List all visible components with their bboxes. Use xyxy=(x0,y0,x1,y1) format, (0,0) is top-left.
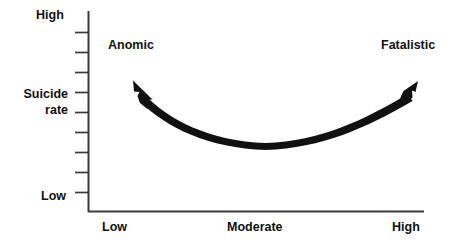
x-axis-label-moderate: Moderate xyxy=(227,220,283,235)
annotation-fatalistic: Fatalistic xyxy=(381,38,435,53)
x-axis-label-high: High xyxy=(392,220,420,235)
y-axis-title: Suicide rate xyxy=(2,86,68,118)
y-axis-low-label: Low xyxy=(41,189,66,204)
chart-container: High Low Suicide rate Low Moderate High … xyxy=(0,0,456,247)
y-axis-high-label: High xyxy=(36,8,64,23)
annotation-anomic: Anomic xyxy=(108,38,154,53)
y-axis-title-line1: Suicide xyxy=(2,86,68,102)
x-axis-label-low: Low xyxy=(102,220,127,235)
u-curve-arrow xyxy=(133,81,418,151)
y-axis-title-line2: rate xyxy=(2,102,68,118)
y-axis-ticks xyxy=(75,33,88,193)
curve-body xyxy=(139,93,413,150)
